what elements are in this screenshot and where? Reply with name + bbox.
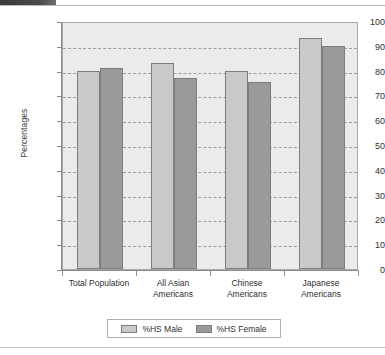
y-tick-mark-30	[57, 196, 62, 197]
y-tick-mark-70	[57, 96, 62, 97]
legend-item-male: %HS Male	[121, 324, 182, 334]
y-tick-label-90: 90	[331, 42, 385, 52]
x-tick-mark-1	[136, 271, 137, 276]
y-axis-title: Percentages	[19, 83, 29, 183]
x-tick-mark-2	[210, 271, 211, 276]
chart-legend: %HS Male %HS Female	[107, 319, 281, 338]
bar-female-2	[248, 82, 271, 269]
y-tick-mark-40	[57, 171, 62, 172]
bottom-divider-rule	[0, 347, 385, 348]
y-tick-mark-80	[57, 72, 62, 73]
y-tick-label-30: 30	[331, 191, 385, 201]
category-label-3: Japanese Americans	[284, 278, 358, 300]
y-tick-label-10: 10	[331, 240, 385, 250]
y-tick-label-60: 60	[331, 116, 385, 126]
y-tick-label-70: 70	[331, 91, 385, 101]
bar-chart-figure: Percentages %HS Male %HS Female 10090807…	[0, 6, 385, 347]
y-tick-mark-100	[57, 22, 62, 23]
bar-female-3	[322, 46, 345, 269]
bar-female-1	[174, 78, 197, 269]
legend-item-female: %HS Female	[196, 324, 267, 334]
y-tick-mark-10	[57, 245, 62, 246]
y-tick-mark-50	[57, 146, 62, 147]
legend-label-male: %HS Male	[142, 324, 182, 334]
legend-swatch-male	[121, 325, 137, 333]
bar-male-2	[225, 71, 248, 269]
y-tick-label-20: 20	[331, 215, 385, 225]
y-tick-mark-60	[57, 121, 62, 122]
legend-label-female: %HS Female	[217, 324, 267, 334]
bar-male-3	[299, 38, 322, 269]
bar-male-0	[77, 71, 100, 269]
x-tick-mark-end	[358, 271, 359, 276]
y-tick-mark-20	[57, 220, 62, 221]
y-tick-mark-90	[57, 47, 62, 48]
y-tick-label-40: 40	[331, 166, 385, 176]
legend-swatch-female	[196, 325, 212, 333]
category-label-0: Total Population	[62, 278, 136, 289]
x-tick-mark-3	[284, 271, 285, 276]
y-tick-label-80: 80	[331, 67, 385, 77]
y-tick-label-100: 100	[331, 17, 385, 27]
plot-area	[62, 22, 358, 270]
y-tick-label-50: 50	[331, 141, 385, 151]
category-label-1: All Asian Americans	[136, 278, 210, 300]
bar-male-1	[151, 63, 174, 269]
x-tick-mark-0	[62, 271, 63, 276]
bar-female-0	[100, 68, 123, 269]
category-label-2: Chinese Americans	[210, 278, 284, 300]
